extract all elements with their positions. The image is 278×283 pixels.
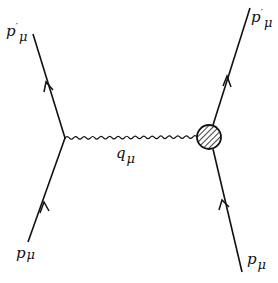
label-incoming-right-momentum: pμ (247, 252, 266, 267)
label-subscript: μ (127, 151, 135, 166)
incoming-right-fermion-line (213, 149, 242, 272)
incoming-left-fermion-line (28, 138, 65, 242)
lepton-vertex-point (64, 137, 66, 139)
label-prime: ′ (16, 21, 18, 32)
label-base: p (6, 22, 16, 40)
label-subscript: μ (19, 29, 27, 44)
label-subscript: μ (27, 247, 35, 262)
label-outgoing-right-momentum: p′μ (251, 10, 272, 25)
label-outgoing-left-momentum: p′μ (6, 24, 27, 39)
label-base: p (251, 8, 261, 26)
label-propagator-momentum: qμ (116, 146, 135, 161)
label-base: p (247, 250, 257, 268)
label-base: q (116, 144, 126, 162)
label-incoming-left-momentum: pμ (16, 246, 35, 261)
label-subscript: μ (264, 15, 272, 30)
label-subscript: μ (258, 257, 266, 272)
hadronic-vertex-blob (197, 125, 221, 149)
label-prime: ′ (261, 7, 263, 18)
outgoing-left-fermion-line (33, 34, 65, 138)
photon-propagator-wavy-line (65, 136, 197, 140)
feynman-diagram (0, 0, 278, 283)
label-base: p (16, 244, 26, 262)
outgoing-right-fermion-line (213, 8, 250, 125)
